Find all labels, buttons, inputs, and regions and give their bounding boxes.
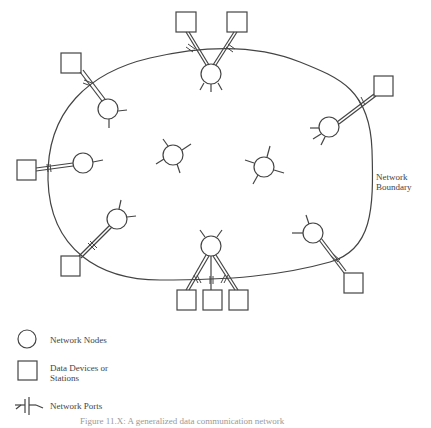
network-node — [254, 157, 274, 177]
network-node — [98, 99, 118, 119]
legend-device-icon — [18, 361, 37, 380]
legend-devices-line1: Data Devices or — [50, 363, 108, 373]
device-station — [227, 12, 247, 32]
network-node — [107, 209, 127, 229]
legend-node-icon — [18, 330, 36, 348]
network-node — [303, 223, 323, 243]
boundary-label: Network Boundary — [376, 172, 412, 192]
boundary-label-line2: Boundary — [376, 182, 412, 192]
device-station — [203, 290, 222, 310]
device-station — [61, 256, 80, 276]
device-station — [176, 12, 196, 32]
legend-devices-label: Data Devices or Stations — [50, 363, 108, 383]
figure-caption: Figure 11.X: A generalized data communic… — [80, 416, 284, 426]
device-station — [374, 76, 393, 96]
device-station — [61, 53, 81, 73]
boundary-label-line1: Network — [376, 172, 412, 182]
legend-port-icon — [15, 397, 43, 415]
device-station — [17, 160, 36, 180]
network-node — [319, 117, 339, 137]
network-node — [201, 64, 221, 84]
legend-devices-line2: Stations — [50, 373, 108, 383]
network-node — [163, 145, 183, 165]
device-station — [229, 290, 248, 310]
legend-nodes-label: Network Nodes — [50, 335, 107, 345]
network-node — [201, 236, 221, 256]
legend-ports-label: Network Ports — [50, 401, 102, 411]
network-node — [73, 153, 93, 173]
device-station — [177, 290, 196, 310]
device-station — [344, 273, 363, 293]
